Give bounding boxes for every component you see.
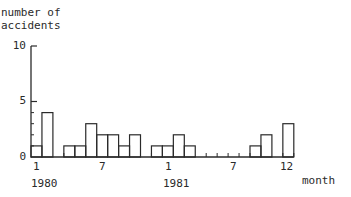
bar-1981-03 <box>184 146 195 157</box>
bar-1981-01 <box>162 146 173 157</box>
x-tick-label-1980-jan: 1 <box>33 161 40 173</box>
bar-1980-06 <box>86 124 97 157</box>
x-tick-label-1980-jul: 7 <box>99 161 106 173</box>
bar-1980-04 <box>64 146 75 157</box>
bar-1981-09 <box>250 146 261 157</box>
bar-1981-02 <box>173 135 184 157</box>
year-label-1981: 1981 <box>163 178 190 190</box>
bar-1980-02 <box>42 113 53 157</box>
bar-1980-08 <box>108 135 119 157</box>
bar-1980-01 <box>31 146 42 157</box>
bar-1980-07 <box>97 135 108 157</box>
bar-1980-12 <box>151 146 162 157</box>
bar-1981-12 <box>283 124 294 157</box>
x-axis-title: month <box>302 175 335 187</box>
year-label-1980: 1980 <box>31 178 58 190</box>
x-tick-label-1981-jul: 7 <box>230 161 237 173</box>
bar-1980-09 <box>119 146 130 157</box>
x-tick-label-1981-dec: 12 <box>280 161 293 173</box>
bar-1980-10 <box>130 135 141 157</box>
x-tick-label-1981-jan: 1 <box>165 161 172 173</box>
bar-1981-10 <box>261 135 272 157</box>
bar-1980-05 <box>75 146 86 157</box>
bar-chart <box>0 0 351 197</box>
